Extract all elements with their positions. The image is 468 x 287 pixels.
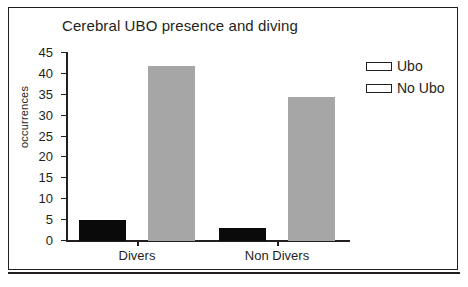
legend-item-no-ubo[interactable]: No Ubo <box>366 77 444 99</box>
x-axis-tick <box>137 240 139 246</box>
y-axis-tick-label: 40 <box>39 65 53 80</box>
x-axis-category-label: Non Divers <box>245 248 309 263</box>
chart-title: Cerebral UBO presence and diving <box>62 17 298 34</box>
bar-non-divers-ubo <box>219 228 266 241</box>
x-axis-category-label: Divers <box>119 248 156 263</box>
y-axis-tick: 0 <box>61 240 67 241</box>
y-axis-tick: 5 <box>61 219 67 220</box>
y-axis-tick-label: 35 <box>39 86 53 101</box>
y-axis-tick: 25 <box>61 136 67 137</box>
y-axis-tick-label: 10 <box>39 191 53 206</box>
legend-swatch-icon <box>366 62 392 71</box>
y-axis-tick: 20 <box>61 156 67 157</box>
legend-label: No Ubo <box>397 80 444 96</box>
y-axis-tick: 10 <box>61 198 67 199</box>
y-axis-tick-label: 25 <box>39 128 53 143</box>
y-axis-tick: 30 <box>61 115 67 116</box>
y-axis-tick: 45 <box>61 52 67 53</box>
legend-label: Ubo <box>397 58 423 74</box>
plot-area: 051015202530354045 <box>67 53 347 241</box>
legend-swatch-icon <box>366 84 392 93</box>
y-axis-tick: 15 <box>61 177 67 178</box>
bottom-rule <box>8 272 460 274</box>
bar-divers-ubo <box>79 220 126 241</box>
bar-non-divers-no-ubo <box>288 97 335 241</box>
y-axis-tick: 40 <box>61 73 67 74</box>
y-axis-title: occurrences <box>18 86 30 148</box>
y-axis-tick-label: 20 <box>39 149 53 164</box>
y-axis-tick-label: 5 <box>46 212 53 227</box>
bar-divers-no-ubo <box>148 66 195 241</box>
y-axis-tick-label: 30 <box>39 107 53 122</box>
y-axis-tick: 35 <box>61 94 67 95</box>
x-axis-tick <box>277 240 279 246</box>
legend-item-ubo[interactable]: Ubo <box>366 55 444 77</box>
chart-legend: UboNo Ubo <box>366 55 444 99</box>
y-axis-tick-label: 45 <box>39 45 53 60</box>
y-axis-tick-label: 0 <box>46 233 53 248</box>
chart-figure: Cerebral UBO presence and diving occurre… <box>0 0 468 287</box>
y-axis-tick-label: 15 <box>39 170 53 185</box>
